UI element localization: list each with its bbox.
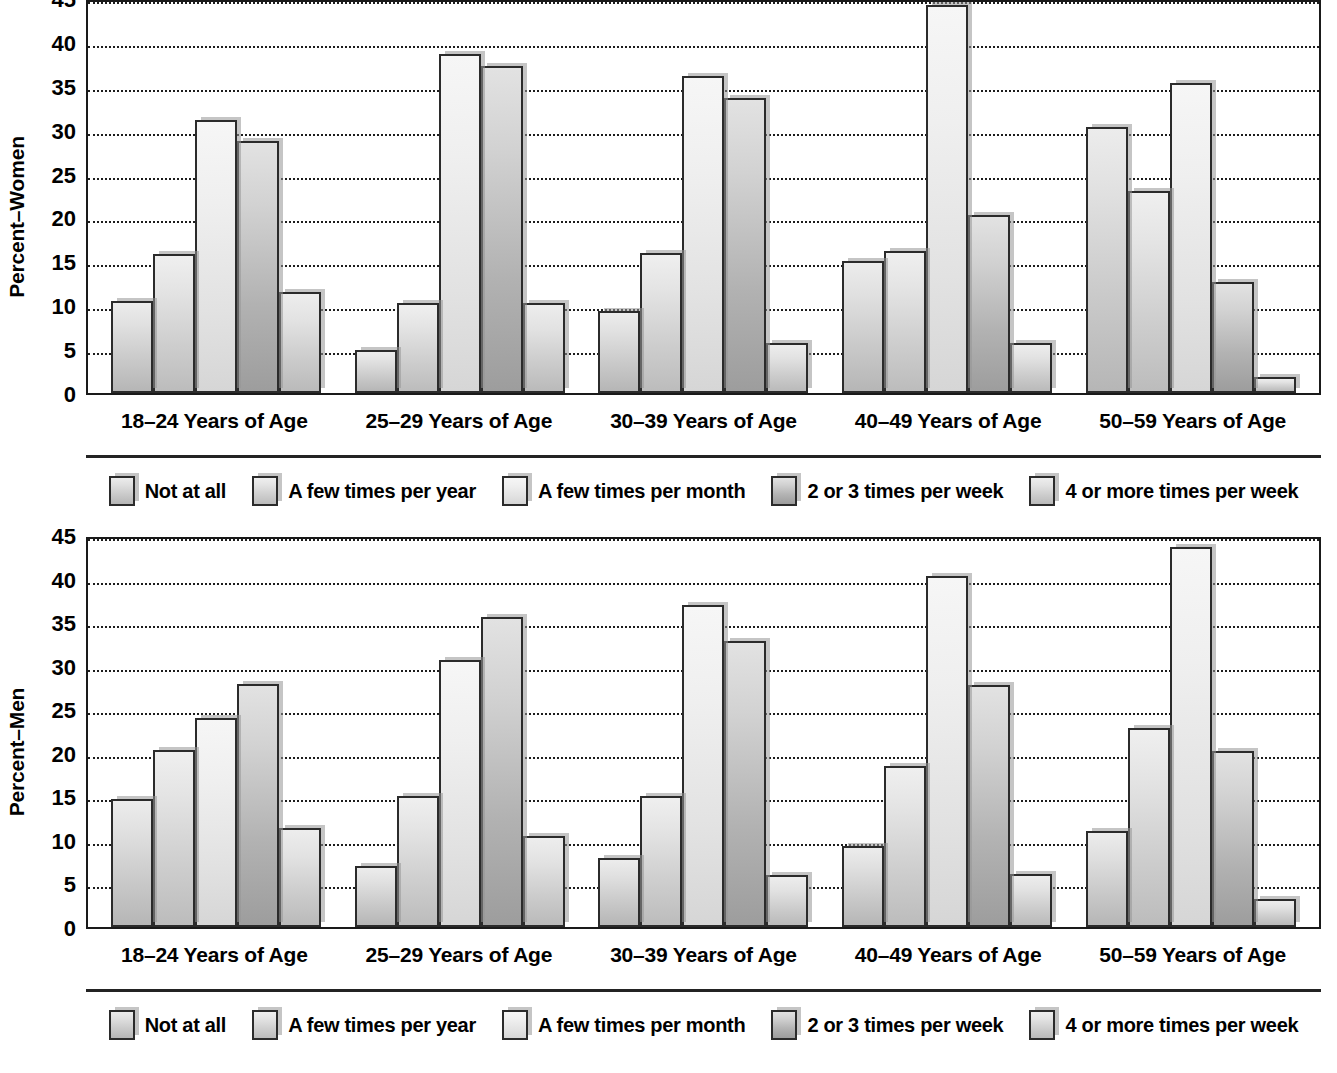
bar[interactable] <box>884 766 926 927</box>
bar[interactable] <box>355 350 397 393</box>
legend-item[interactable]: Not at all <box>109 1010 226 1040</box>
figure-root: Percent–Women 454035302520151050 18–24 Y… <box>0 0 1337 1073</box>
y-tick-label: 40 <box>52 33 76 55</box>
legend-label: A few times per year <box>288 480 476 503</box>
legend-item[interactable]: A few times per month <box>502 476 745 506</box>
bar[interactable] <box>153 750 195 927</box>
bar[interactable] <box>640 253 682 393</box>
x-axis-labels-men: 18–24 Years of Age25–29 Years of Age30–3… <box>86 943 1321 967</box>
legend-swatch-icon <box>771 1010 797 1040</box>
bar[interactable] <box>111 301 153 393</box>
bar[interactable] <box>842 846 884 927</box>
bar[interactable] <box>397 796 439 927</box>
chart-panel-women: Percent–Women 454035302520151050 18–24 Y… <box>0 0 1337 537</box>
legend-swatch-icon <box>771 476 797 506</box>
bar[interactable] <box>111 799 153 927</box>
x-axis-label: 18–24 Years of Age <box>121 943 308 967</box>
legend-item[interactable]: Not at all <box>109 476 226 506</box>
bar[interactable] <box>1254 377 1296 393</box>
bar[interactable] <box>1170 83 1212 393</box>
bar-group <box>842 2 1052 393</box>
bar[interactable] <box>237 141 279 393</box>
bar[interactable] <box>724 98 766 393</box>
x-axis-label: 25–29 Years of Age <box>366 943 553 967</box>
y-axis-ticks-men: 454035302520151050 <box>34 537 86 929</box>
bar[interactable] <box>355 866 397 927</box>
legend-women: Not at allA few times per yearA few time… <box>0 476 1337 506</box>
bar[interactable] <box>1010 343 1052 393</box>
y-tick-label: 15 <box>52 252 76 274</box>
y-tick-label: 15 <box>52 787 76 809</box>
bar[interactable] <box>439 54 481 393</box>
chart-area-women: Percent–Women 454035302520151050 18–24 Y… <box>0 0 1337 433</box>
bar[interactable] <box>884 251 926 393</box>
bar[interactable] <box>1212 282 1254 393</box>
bar[interactable] <box>766 875 808 927</box>
legend-item[interactable]: 2 or 3 times per week <box>771 476 1003 506</box>
bar[interactable] <box>842 261 884 393</box>
x-axis-label: 18–24 Years of Age <box>121 409 308 433</box>
bar[interactable] <box>523 836 565 927</box>
plot-area-men <box>86 537 1321 929</box>
bar[interactable] <box>481 66 523 393</box>
legend-item[interactable]: 4 or more times per week <box>1029 1010 1298 1040</box>
bar[interactable] <box>1212 751 1254 927</box>
legend-label: 2 or 3 times per week <box>807 480 1003 503</box>
legend-label: A few times per month <box>538 480 745 503</box>
bar[interactable] <box>926 5 968 393</box>
legend-label: Not at all <box>145 480 226 503</box>
legend-item[interactable]: 2 or 3 times per week <box>771 1010 1003 1040</box>
legend-item[interactable]: 4 or more times per week <box>1029 476 1298 506</box>
bar-group <box>355 539 565 927</box>
bar[interactable] <box>926 576 968 927</box>
bar[interactable] <box>397 303 439 393</box>
bar-group <box>598 2 808 393</box>
bar[interactable] <box>968 215 1010 393</box>
bar[interactable] <box>439 660 481 927</box>
legend-swatch-icon <box>252 1010 278 1040</box>
y-axis-title-men: Percent–Men <box>5 688 29 817</box>
bar[interactable] <box>195 718 237 927</box>
bar[interactable] <box>481 617 523 927</box>
y-tick-label: 0 <box>64 384 76 406</box>
x-axis-label: 40–49 Years of Age <box>855 409 1042 433</box>
bar-group <box>598 539 808 927</box>
legend-swatch-icon <box>252 476 278 506</box>
x-axis-labels-women: 18–24 Years of Age25–29 Years of Age30–3… <box>86 409 1321 433</box>
legend-item[interactable]: A few times per year <box>252 476 476 506</box>
bar[interactable] <box>1128 728 1170 927</box>
y-tick-label: 40 <box>52 570 76 592</box>
bar[interactable] <box>598 858 640 927</box>
bar[interactable] <box>598 311 640 393</box>
bar[interactable] <box>968 685 1010 927</box>
bar[interactable] <box>766 343 808 393</box>
legend-item[interactable]: A few times per month <box>502 1010 745 1040</box>
bar-groups-women <box>88 2 1319 393</box>
bar[interactable] <box>1086 127 1128 393</box>
bar[interactable] <box>682 76 724 393</box>
bar[interactable] <box>1128 191 1170 393</box>
bar[interactable] <box>724 641 766 927</box>
bar[interactable] <box>279 828 321 927</box>
legend-label: A few times per year <box>288 1014 476 1037</box>
y-tick-label: 25 <box>52 700 76 722</box>
bar[interactable] <box>682 605 724 927</box>
bar[interactable] <box>279 292 321 393</box>
bar[interactable] <box>153 254 195 393</box>
x-axis-label: 30–39 Years of Age <box>610 409 797 433</box>
y-tick-label: 5 <box>64 340 76 362</box>
bar[interactable] <box>1170 547 1212 927</box>
panel-divider-men <box>86 989 1321 992</box>
legend-item[interactable]: A few times per year <box>252 1010 476 1040</box>
bar[interactable] <box>195 120 237 393</box>
legend-label: 4 or more times per week <box>1065 1014 1298 1037</box>
bar[interactable] <box>523 303 565 393</box>
bar-group <box>111 539 321 927</box>
legend-label: A few times per month <box>538 1014 745 1037</box>
bar[interactable] <box>237 684 279 927</box>
bar[interactable] <box>640 796 682 927</box>
bar[interactable] <box>1010 874 1052 927</box>
y-tick-label: 5 <box>64 874 76 896</box>
bar[interactable] <box>1086 831 1128 927</box>
bar[interactable] <box>1254 899 1296 927</box>
